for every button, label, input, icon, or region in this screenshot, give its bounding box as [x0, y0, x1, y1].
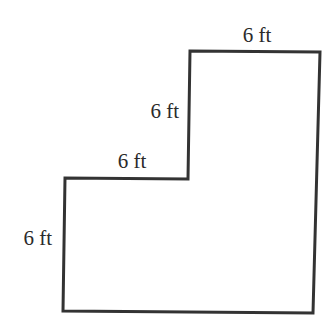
label-lower-left-edge: 6 ft	[23, 226, 52, 250]
l-shape-figure: 6 ft 6 ft 6 ft 6 ft	[0, 0, 331, 336]
label-middle-horizontal-edge: 6 ft	[118, 149, 147, 173]
label-upper-vertical-edge: 6 ft	[150, 99, 179, 123]
l-shape-outline	[63, 51, 320, 313]
label-top-edge: 6 ft	[243, 23, 272, 47]
diagram-canvas: 6 ft 6 ft 6 ft 6 ft	[0, 0, 331, 336]
